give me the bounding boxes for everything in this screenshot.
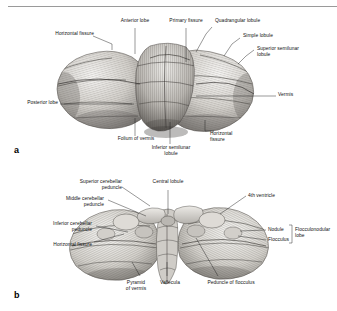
panel-letter-a: a [14,145,19,155]
label-posterior-lobe: Posterior lobe [4,100,58,106]
label-horizontal-fissure-a2: Horizontal fissure [210,131,252,142]
panel-letter-b: b [14,290,20,300]
label-superior-semilunar-lobule: Superior semilunar lobule [257,46,335,57]
label-superior-cerebellar-peduncle: Superior cerebellar peduncle [42,179,122,190]
label-peduncle-of-flocculus: Peduncle of flocculus [190,280,272,286]
label-primary-fissure: Primary fissure [157,18,215,24]
label-horizontal-fissure-b: Horizontal fissure [8,242,92,248]
panel-a-illustration [48,38,270,140]
label-horizontal-fissure-a: Horizontal fissure [18,31,94,37]
label-quadrangular-lobule: Quadrangular lobule [215,18,307,24]
label-flocculonodular-lobe: Flocculonodular lobe [295,227,337,238]
label-central-lobule: Central lobule [136,179,200,185]
label-simple-lobule: Simple lobule [243,33,313,39]
label-vallecula: Vallecula [150,280,190,286]
label-middle-cerebellar-peduncle: Middle cerebellar peduncle [22,196,104,207]
panel-b-illustration [62,200,278,288]
label-vermis-a: Vermis [278,92,330,98]
label-inferior-semilunar-lobule: Inferior semilunar lobule [139,145,203,156]
label-inferior-cerebellar-peduncle: Inferior cerebellar peduncle [8,221,92,232]
label-fourth-ventricle: 4th ventricle [248,193,304,199]
label-folium-of-vermis: Folium of vermis [104,136,168,142]
cerebellum-figure: Horizontal fissure Anterior lobe Primary… [0,0,337,311]
